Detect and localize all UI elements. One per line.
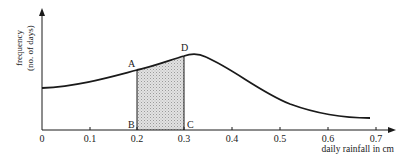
x-axis-label: daily rainfall in cm (321, 144, 394, 154)
tick-label-0: 0 (40, 133, 45, 144)
tick-label-0.2: 0.2 (131, 133, 144, 144)
x-tick-labels: 0 0.1 0.2 0.3 0.4 0.5 0.6 0.7 (40, 133, 383, 144)
tick-label-0.7: 0.7 (370, 133, 383, 144)
y-axis-label-line1: frequency (14, 30, 24, 66)
tick-label-0.5: 0.5 (274, 133, 287, 144)
tick-label-0.3: 0.3 (178, 133, 191, 144)
rainfall-frequency-chart: 0 0.1 0.2 0.3 0.4 0.5 0.6 0.7 A B C D da… (0, 0, 405, 163)
point-label-a: A (128, 58, 136, 69)
y-axis-arrow-icon (39, 8, 45, 16)
frequency-curve (42, 54, 370, 118)
tick-label-0.4: 0.4 (226, 133, 239, 144)
point-label-b: B (128, 119, 135, 130)
shaded-region-abcd (137, 56, 184, 130)
point-label-c: C (187, 119, 194, 130)
y-axis-label: frequency (no. of days) (14, 25, 35, 71)
tick-label-0.6: 0.6 (322, 133, 335, 144)
tick-label-0.1: 0.1 (84, 133, 97, 144)
point-label-d: D (181, 42, 188, 53)
x-axis-arrow-icon (388, 127, 396, 133)
y-axis-label-line2: (no. of days) (25, 25, 35, 71)
